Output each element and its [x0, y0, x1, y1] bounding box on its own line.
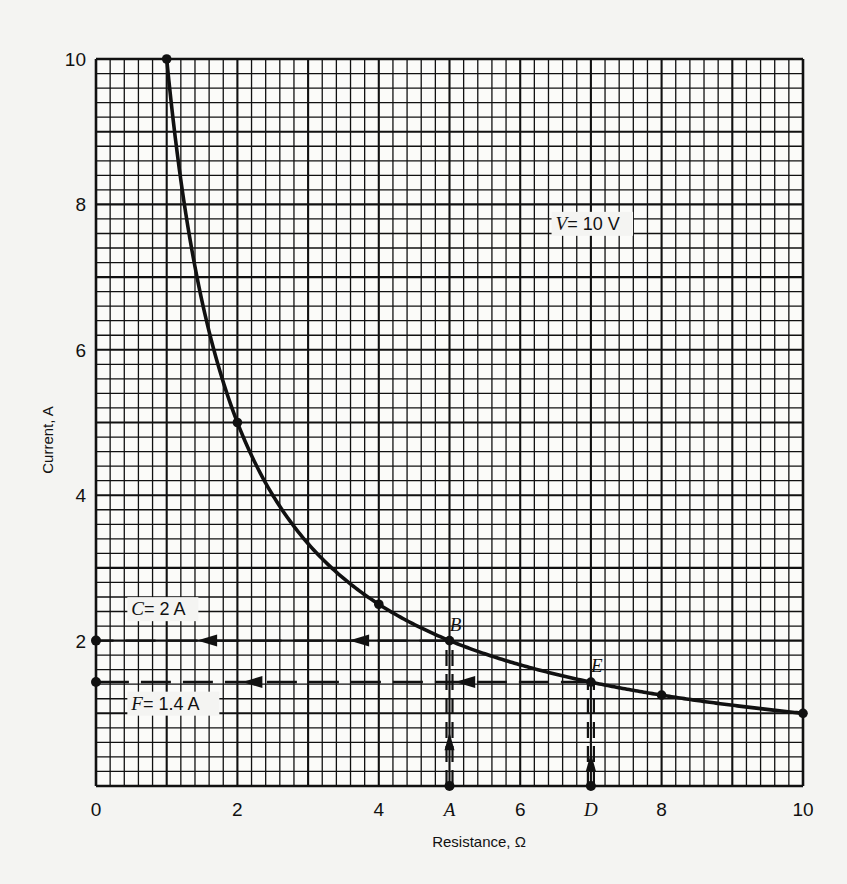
y-axis-title: Current, A: [39, 406, 56, 474]
x-axis-ticks: 024A6D810: [91, 799, 814, 820]
y-tick-label: 8: [75, 194, 86, 215]
data-point: [445, 636, 455, 646]
data-point: [162, 54, 172, 64]
x-tick-label: A: [442, 799, 456, 820]
y-tick-label: 2: [75, 631, 86, 652]
y-tick-label: 10: [65, 49, 86, 70]
axis-point-marker: [586, 781, 596, 791]
data-point: [657, 690, 667, 700]
point-label-e: E: [590, 655, 603, 676]
y-tick-label: 4: [75, 485, 86, 506]
axis-point-marker: [445, 781, 455, 791]
x-tick-label: 0: [91, 799, 102, 820]
x-tick-label: 10: [792, 799, 813, 820]
label-F: F= 1.4 A: [130, 693, 199, 714]
x-tick-label: 2: [232, 799, 243, 820]
data-point: [586, 677, 596, 687]
axis-point-marker: [91, 636, 101, 646]
x-tick-label: 4: [374, 799, 385, 820]
data-point: [374, 599, 384, 609]
data-point: [233, 418, 243, 428]
x-axis-title: Resistance, Ω: [432, 833, 526, 850]
y-axis-ticks: 246810: [65, 49, 87, 652]
chart-canvas: 024A6D810 246810 V= 10 VBEC= 2 AF= 1.4 A…: [0, 0, 847, 884]
grid: [96, 59, 803, 786]
point-label-b: B: [450, 614, 462, 635]
label-C: C= 2 A: [131, 598, 185, 619]
curve-label: V= 10 V: [556, 213, 620, 234]
x-tick-label: 8: [656, 799, 667, 820]
x-tick-label: D: [583, 799, 598, 820]
axis-point-marker: [91, 677, 101, 687]
x-tick-label: 6: [515, 799, 526, 820]
y-tick-label: 6: [75, 340, 86, 361]
data-point: [798, 709, 808, 719]
